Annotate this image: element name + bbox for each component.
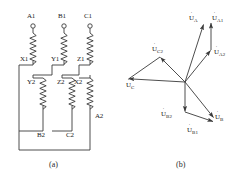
coil-c-upper — [87, 33, 93, 64]
label-coil-x2: X2 — [74, 78, 82, 86]
phasor-label-u-b1: ̇UB1 — [187, 126, 198, 135]
label-coil-z1: Z1 — [77, 55, 84, 63]
phasor-label-u-a2: ̇UA2 — [214, 48, 225, 57]
label-terminal-a1: A1 — [27, 12, 35, 20]
label-coil-z2: Z2 — [57, 78, 64, 86]
coil-b-upper — [61, 33, 67, 64]
phasor-label-u-c2: ̇UC2 — [152, 45, 163, 54]
circuit-and-phasor-drawing — [0, 0, 248, 182]
label-coil-c2: C2 — [66, 131, 74, 139]
wire-z1-to-z2 — [79, 65, 90, 75]
phasor-arrow-u-b1 — [185, 112, 213, 122]
caption-subfigure-b: (b) — [176, 160, 185, 169]
label-coil-x1: X1 — [20, 55, 28, 63]
coil-a-upper — [30, 33, 36, 64]
terminal-dot-c1 — [88, 24, 92, 28]
wire-z2-bottom — [52, 106, 72, 132]
label-coil-y1: Y1 — [51, 55, 59, 63]
phasor-arrow-u-a2 — [185, 51, 211, 83]
wire-y2-bottom — [19, 106, 43, 132]
wire-y1-to-y2 — [52, 65, 64, 75]
label-coil-b2: B2 — [37, 131, 45, 139]
terminal-dot-b1 — [62, 24, 66, 28]
label-terminal-c1: C1 — [84, 12, 92, 20]
subfigure-b-phasors — [129, 23, 214, 122]
label-coil-a2: A2 — [95, 112, 103, 120]
phasor-label-u-a1: ̇UA1 — [212, 14, 223, 23]
phasor-side-c2-to-c — [129, 57, 161, 79]
coil-x2-lower — [87, 78, 93, 109]
terminal-dot-a1 — [31, 24, 35, 28]
phasor-label-u-c: ̇UC — [126, 81, 134, 90]
coil-y2-lower — [40, 78, 46, 109]
phasor-label-u-b2: ̇UB2 — [161, 110, 172, 119]
phasor-arrow-u-c — [129, 79, 185, 82]
phasor-arrow-u-c2 — [161, 58, 186, 83]
phasor-arrow-u-a — [185, 25, 204, 83]
phasor-arrow-u-b — [185, 82, 214, 118]
label-terminal-b1: B1 — [58, 12, 66, 20]
label-coil-y2: Y2 — [27, 78, 35, 86]
subfigure-a-circuit — [19, 24, 93, 150]
caption-subfigure-a: (a) — [49, 160, 58, 169]
phasor-label-u-a: ̇UA — [189, 14, 198, 23]
phasor-label-u-b: ̇UB — [215, 113, 223, 122]
figure-root: A1 B1 C1 X1 Y1 Z1 Y2 Z2 X2 B2 C2 A2 ̇UA … — [0, 0, 248, 182]
